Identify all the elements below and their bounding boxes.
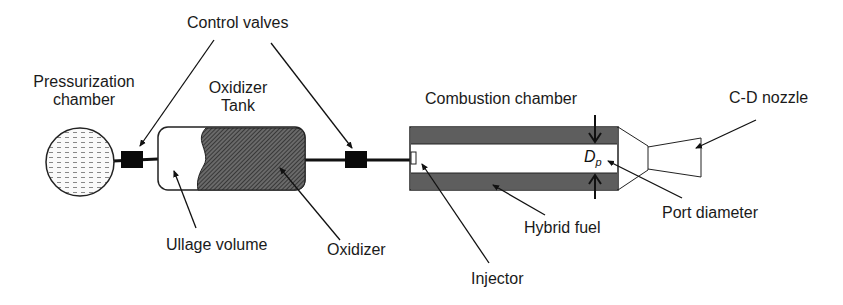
hybrid-fuel-label: Hybrid fuel	[524, 219, 600, 237]
label-line: Oxidizer	[200, 79, 276, 97]
ullage-volume-label: Ullage volume	[166, 236, 267, 254]
control-valves-label: Control valves	[187, 14, 288, 32]
fuel-grain-top	[411, 128, 617, 144]
control-valve-2	[345, 151, 367, 168]
pressurization-chamber-shape	[46, 128, 114, 196]
oxidizer-label: Oxidizer	[327, 241, 386, 259]
pressurization-chamber-label: Pressurization chamber	[26, 73, 142, 109]
cd-nozzle-label: C-D nozzle	[729, 89, 808, 107]
oxidizer-tank-shape	[158, 127, 305, 190]
port-diameter-label: Port diameter	[662, 204, 758, 222]
dp-subscript: p	[596, 156, 602, 168]
dp-symbol: D	[584, 148, 596, 165]
diagram-canvas	[0, 0, 843, 305]
port-diameter-symbol: Dp	[584, 148, 602, 168]
label-line: Pressurization	[26, 73, 142, 91]
label-line: chamber	[26, 91, 142, 109]
label-line: Tank	[200, 97, 276, 115]
cd-nozzle-shape	[618, 127, 701, 190]
fuel-grain-bottom	[411, 173, 617, 189]
injector-label: Injector	[471, 270, 523, 288]
injector-shape	[411, 152, 416, 164]
control-valve-1	[121, 151, 143, 168]
oxidizer-tank-label: Oxidizer Tank	[200, 79, 276, 115]
combustion-chamber-label: Combustion chamber	[425, 90, 577, 108]
